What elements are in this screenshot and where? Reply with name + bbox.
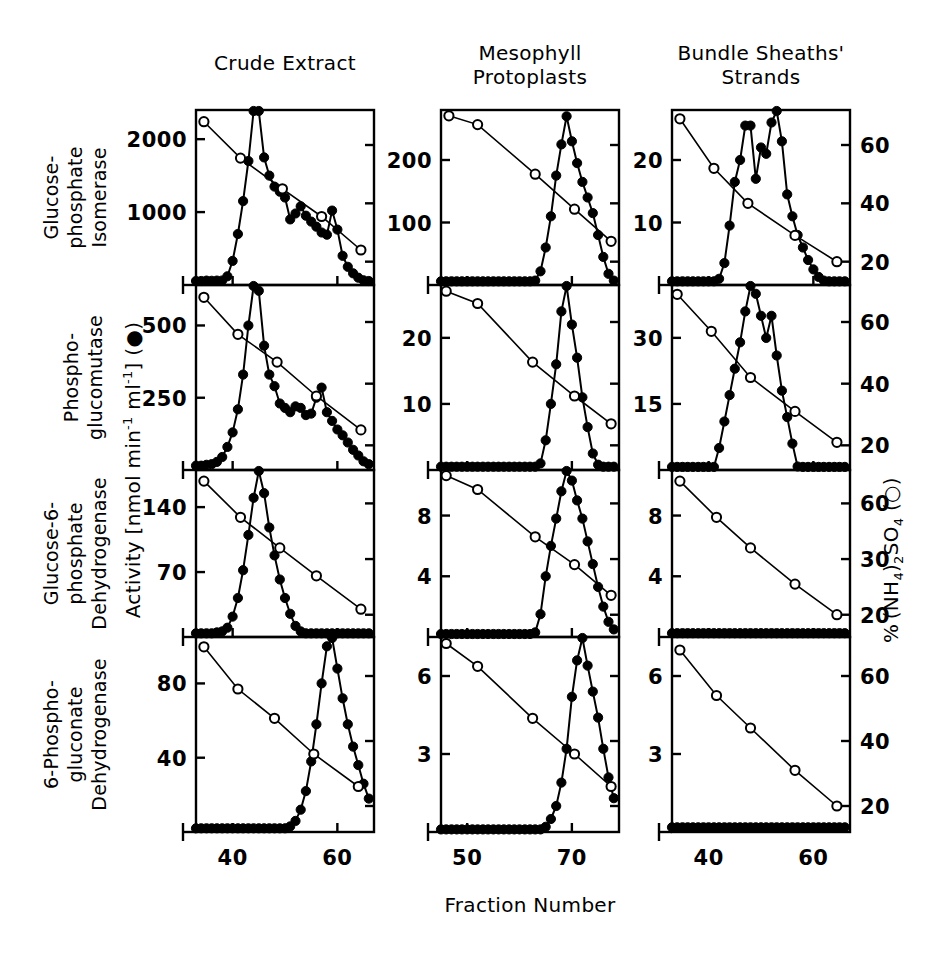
activity-point bbox=[552, 360, 561, 369]
activity-point bbox=[536, 267, 545, 276]
row-label-3-line-2: Dehydrogenase bbox=[88, 658, 110, 810]
panel-frame bbox=[196, 470, 374, 637]
activity-point bbox=[265, 523, 274, 532]
column-title-0-line-0: Crude Extract bbox=[214, 51, 356, 75]
activity-point bbox=[609, 794, 618, 803]
activity-point bbox=[720, 417, 729, 426]
gradient-point bbox=[309, 749, 318, 758]
gradient-line bbox=[680, 481, 837, 615]
y-ticklabel-left: 140 bbox=[142, 496, 187, 520]
activity-point bbox=[557, 307, 566, 316]
panel-r2-c2: 48203060 bbox=[648, 470, 890, 646]
y-ticklabel-left: 6 bbox=[417, 665, 432, 689]
activity-point bbox=[260, 341, 269, 350]
activity-point bbox=[307, 409, 316, 418]
activity-point bbox=[557, 778, 566, 787]
activity-point bbox=[736, 155, 745, 164]
activity-point bbox=[762, 149, 771, 158]
gradient-point bbox=[531, 170, 540, 179]
gradient-point bbox=[832, 801, 841, 810]
activity-point bbox=[317, 679, 326, 688]
gradient-point bbox=[356, 245, 365, 254]
panel-r2-c1: 48 bbox=[417, 466, 619, 646]
activity-curve bbox=[441, 471, 614, 634]
activity-point bbox=[599, 252, 608, 261]
activity-point bbox=[730, 177, 739, 186]
y-ticklabel-left: 1000 bbox=[127, 201, 187, 225]
activity-point bbox=[223, 272, 232, 281]
enzyme-gradient-figure: Crude ExtractMesophyllProtoplastsBundle … bbox=[0, 0, 930, 954]
activity-point bbox=[573, 353, 582, 362]
gradient-point bbox=[570, 560, 579, 569]
activity-point bbox=[557, 140, 566, 149]
activity-point bbox=[840, 823, 849, 832]
gradient-point bbox=[473, 485, 482, 494]
activity-point bbox=[541, 243, 550, 252]
gradient-point bbox=[233, 330, 242, 339]
gradient-point bbox=[312, 571, 321, 580]
x-ticklabel: 70 bbox=[557, 846, 587, 870]
activity-curve bbox=[196, 638, 369, 828]
activity-point bbox=[767, 118, 776, 127]
y-ticklabel-left: 200 bbox=[387, 149, 432, 173]
activity-point bbox=[573, 496, 582, 505]
y-ticklabel-left: 6 bbox=[648, 665, 663, 689]
x-axis-title: Fraction Number bbox=[444, 893, 616, 917]
gradient-point bbox=[712, 691, 721, 700]
gradient-point bbox=[607, 591, 616, 600]
gradient-point bbox=[607, 782, 616, 791]
activity-point bbox=[343, 720, 352, 729]
y-ticklabel-left: 15 bbox=[633, 393, 663, 417]
gradient-point bbox=[707, 327, 716, 336]
activity-point bbox=[239, 566, 248, 575]
activity-point bbox=[588, 560, 597, 569]
activity-point bbox=[322, 230, 331, 239]
gradient-point bbox=[444, 111, 453, 120]
x-ticklabel: 50 bbox=[452, 846, 482, 870]
activity-point bbox=[756, 311, 765, 320]
activity-point bbox=[767, 311, 776, 320]
activity-point bbox=[583, 193, 592, 202]
activity-point bbox=[265, 370, 274, 379]
activity-point bbox=[552, 171, 561, 180]
y-ticklabel-right: 40 bbox=[860, 373, 890, 397]
row-label-3-line-0: 6-Phospho- bbox=[40, 680, 62, 789]
panel-r1-c0: 250500 bbox=[142, 281, 374, 479]
activity-point bbox=[364, 794, 373, 803]
activity-point bbox=[349, 742, 358, 751]
activity-point bbox=[322, 408, 331, 417]
gradient-line bbox=[680, 650, 837, 806]
activity-point bbox=[588, 449, 597, 458]
gradient-point bbox=[528, 358, 537, 367]
gradient-point bbox=[528, 714, 537, 723]
activity-point bbox=[720, 259, 729, 268]
y-ticklabel-left: 20 bbox=[402, 327, 432, 351]
activity-point bbox=[599, 602, 608, 611]
activity-point bbox=[239, 370, 248, 379]
gradient-point bbox=[236, 513, 245, 522]
activity-point bbox=[546, 399, 555, 408]
y-ticklabel-left: 80 bbox=[157, 672, 187, 696]
activity-point bbox=[338, 694, 347, 703]
activity-point bbox=[228, 256, 237, 265]
activity-point bbox=[223, 442, 232, 451]
gradient-line bbox=[446, 291, 611, 424]
activity-point bbox=[244, 321, 253, 330]
y-ticklabel-left: 3 bbox=[417, 743, 432, 767]
activity-point bbox=[275, 575, 284, 584]
x-ticklabel: 60 bbox=[322, 846, 352, 870]
panel-frame bbox=[441, 285, 619, 470]
activity-point bbox=[788, 212, 797, 221]
activity-point bbox=[725, 221, 734, 230]
y-ticklabel-right: 20 bbox=[860, 251, 890, 275]
activity-point bbox=[552, 514, 561, 523]
gradient-line bbox=[680, 119, 837, 262]
y-ticklabel-left: 8 bbox=[417, 505, 432, 529]
gradient-point bbox=[199, 293, 208, 302]
gradient-point bbox=[790, 231, 799, 240]
gradient-point bbox=[199, 642, 208, 651]
x-ticklabel: 40 bbox=[694, 846, 724, 870]
y-ticklabel-left: 250 bbox=[142, 387, 187, 411]
activity-curve bbox=[672, 111, 845, 281]
gradient-point bbox=[790, 580, 799, 589]
